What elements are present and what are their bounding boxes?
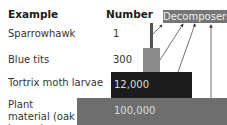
arrows [0,0,227,125]
